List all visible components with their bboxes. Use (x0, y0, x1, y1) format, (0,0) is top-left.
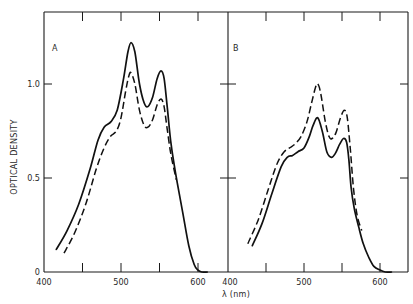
panel-b-x-tick-500: 500 (296, 277, 311, 287)
panel-a-label: A (52, 44, 58, 53)
panel-b-solid-curve (252, 118, 391, 272)
panel-a-solid-curve (56, 43, 207, 273)
plot-frame (44, 12, 408, 272)
spectrum-curves (56, 43, 391, 273)
y-tick-label-0.5: 0.5 (27, 173, 40, 183)
panel-b-x-tick-400: 400 (222, 277, 237, 287)
panel-a-x-tick-500: 500 (113, 277, 128, 287)
panel-b-x-tick-600: 600 (372, 277, 387, 287)
y-tick-label-1.0: 1.0 (27, 79, 40, 89)
y-axis-title: OPTICAL DENSITY (10, 119, 19, 194)
axis-ticks (44, 12, 408, 272)
panel-a-x-tick-600: 600 (190, 277, 205, 287)
y-tick-label-0: 0 (35, 267, 40, 277)
panel-b-dashed-curve (248, 84, 362, 244)
x-axis-title: λ (nm) (222, 290, 250, 299)
panel-b-label: B (233, 44, 239, 53)
panel-a-x-tick-400: 400 (36, 277, 51, 287)
absorption-spectra-figure: 0 0.5 1.0 400 500 600 400 500 600 OPTICA… (0, 0, 413, 304)
